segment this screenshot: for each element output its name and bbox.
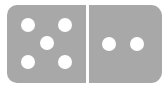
pip-left: [58, 55, 72, 69]
domino-half-right: [89, 5, 162, 83]
pip-right: [102, 37, 116, 51]
pip-left: [58, 18, 72, 32]
pip-right: [130, 37, 144, 51]
pip-left: [40, 36, 54, 50]
pip-left: [21, 18, 35, 32]
pip-left: [21, 55, 35, 69]
